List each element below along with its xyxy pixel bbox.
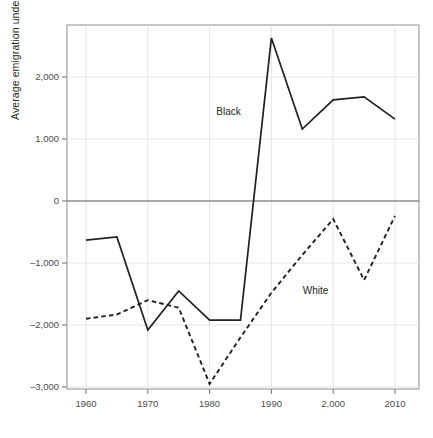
x-tick-label: 1960 [63,398,109,409]
chart-container: Average emigration underflow 2,0001,0000… [0,0,433,438]
y-tick-label: 1,000 [13,133,59,144]
series-label-black: Black [216,106,240,117]
x-tick-label: 1980 [187,398,233,409]
line-chart-plot [0,0,433,438]
x-tick-label: 2,000 [310,398,356,409]
y-tick-label: –2,000 [13,319,59,330]
y-tick-label: –3,000 [13,381,59,392]
y-tick-label: 0 [13,195,59,206]
y-tick-label: –1,000 [13,257,59,268]
x-tick-label: 1970 [125,398,171,409]
x-tick-label: 1990 [248,398,294,409]
series-label-white: White [303,285,329,296]
x-tick-label: 2010 [372,398,418,409]
y-tick-label: 2,000 [13,71,59,82]
